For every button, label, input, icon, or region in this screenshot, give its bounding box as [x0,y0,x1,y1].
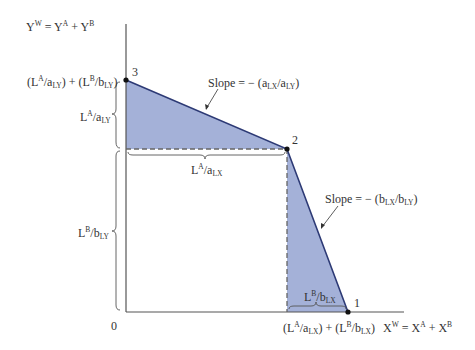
brace-lb-bly [112,151,120,310]
brace-la-alx [128,152,285,159]
x-axis-label: XW = XA + XB [383,321,452,334]
la-aly-label: LA/aLY [80,110,111,125]
slope-bottom-arrow [322,206,338,227]
point-3 [123,77,128,82]
diagram-canvas [0,0,475,350]
lb-blx-label: LB/bLX [304,290,336,305]
x-intercept-label: (LA/aLX) + (LB/bLX) [283,321,375,336]
point-2 [284,146,289,151]
y-intercept-label: (LA/aLY) + (LB/bLY) [27,75,117,90]
point-3-label: 3 [132,66,138,78]
y-axis-label: YW = YA + YB [26,20,94,33]
point-1 [345,309,350,314]
point-1-label: 1 [354,297,360,309]
origin-label: 0 [111,320,117,332]
slope-bottom-label: Slope = − (bLX/bLY) [325,193,417,207]
brace-la-aly [112,82,120,148]
slope-top-label: Slope = − (aLX/aLY) [208,77,299,91]
la-alx-label: LA/aLX [191,163,222,178]
point-2-label: 2 [292,134,298,146]
lb-bly-label: LB/bLY [78,226,109,241]
